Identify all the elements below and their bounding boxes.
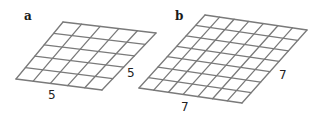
grid-row-line (16, 79, 102, 90)
panel-b-label: b (175, 9, 183, 23)
panel-a-label: a (24, 9, 32, 23)
grid-row-line (25, 68, 112, 79)
grid-row-line (44, 45, 134, 56)
panel-b-bottom-dimension-label: 7 (181, 100, 189, 114)
grid-column-line (242, 30, 307, 103)
grid-column-line (227, 28, 292, 101)
panel-a-grid-5x5 (16, 22, 156, 90)
grid-row-line (54, 33, 146, 44)
grid-column-line (102, 33, 156, 90)
panel-a-bottom-dimension-label: 5 (48, 88, 56, 102)
panel-b-grid-7x7 (139, 15, 307, 103)
grid-row-line (35, 56, 124, 67)
panel-a: a 5 5 (16, 9, 156, 102)
grid-column-line (68, 29, 119, 86)
grid-diagram: a 5 5 b 7 7 (0, 0, 318, 118)
panel-b-right-dimension-label: 7 (279, 68, 287, 82)
grid-row-line (63, 22, 156, 33)
grid-row-line (139, 88, 242, 103)
grid-column-line (33, 24, 81, 81)
grid-column-line (16, 22, 63, 79)
grid-column-line (50, 26, 100, 83)
panel-b: b 7 7 (139, 9, 307, 114)
panel-a-right-dimension-label: 5 (127, 66, 135, 80)
